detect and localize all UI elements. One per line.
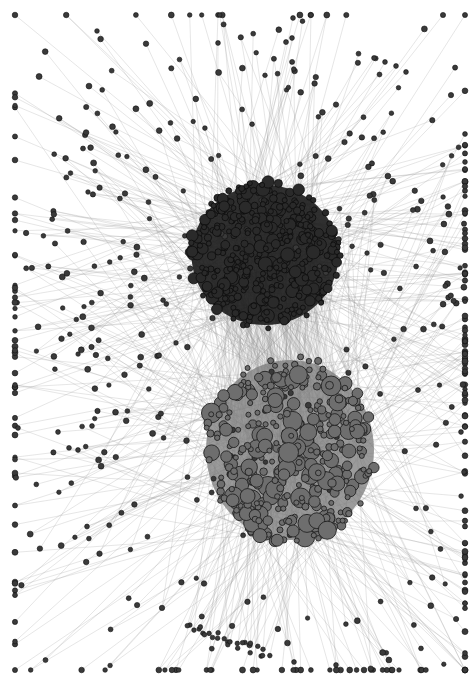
graph-node bbox=[328, 425, 341, 438]
graph-node bbox=[211, 203, 216, 208]
graph-node bbox=[263, 384, 268, 389]
graph-node bbox=[312, 207, 318, 213]
leaf-node bbox=[389, 111, 394, 116]
leaf-node bbox=[107, 523, 112, 528]
leaf-node bbox=[141, 275, 147, 281]
leaf-node bbox=[309, 13, 314, 18]
leaf-node bbox=[13, 503, 18, 508]
graph-node bbox=[355, 405, 361, 411]
leaf-node bbox=[82, 304, 86, 308]
graph-node bbox=[287, 228, 293, 234]
graph-node bbox=[359, 453, 364, 458]
leaf-node bbox=[419, 198, 424, 203]
graph-node bbox=[204, 234, 211, 241]
graph-node bbox=[298, 222, 303, 227]
leaf-node bbox=[463, 339, 468, 344]
leaf-node bbox=[394, 64, 399, 69]
leaf-node bbox=[235, 641, 240, 646]
leaf-node bbox=[397, 668, 402, 673]
leaf-node bbox=[147, 100, 153, 106]
leaf-node bbox=[12, 95, 18, 101]
graph-node bbox=[346, 510, 352, 516]
leaf-node bbox=[125, 409, 130, 414]
leaf-node bbox=[19, 582, 24, 587]
leaf-node bbox=[463, 606, 468, 611]
leaf-node bbox=[209, 156, 214, 161]
leaf-node bbox=[344, 347, 349, 352]
graph-node bbox=[296, 293, 302, 299]
graph-node bbox=[317, 426, 323, 432]
graph-node bbox=[269, 287, 275, 293]
leaf-node bbox=[85, 524, 90, 529]
leaf-node bbox=[380, 650, 386, 656]
graph-node bbox=[241, 240, 248, 247]
leaf-node bbox=[80, 424, 85, 429]
leaf-node bbox=[462, 424, 467, 429]
leaf-node bbox=[187, 13, 192, 18]
leaf-node bbox=[133, 13, 138, 18]
leaf-node bbox=[414, 264, 419, 269]
leaf-node bbox=[390, 178, 396, 184]
leaf-node bbox=[108, 663, 113, 668]
leaf-node bbox=[13, 383, 18, 388]
leaf-node bbox=[261, 595, 266, 600]
leaf-node bbox=[462, 413, 468, 419]
leaf-node bbox=[210, 315, 215, 320]
graph-node bbox=[227, 410, 232, 415]
leaf-node bbox=[12, 588, 17, 593]
leaf-node bbox=[462, 358, 468, 364]
leaf-node bbox=[146, 200, 151, 205]
graph-node bbox=[204, 425, 209, 430]
leaf-node bbox=[440, 301, 446, 307]
graph-node bbox=[234, 293, 241, 300]
graph-node bbox=[271, 240, 280, 249]
graph-node bbox=[263, 405, 271, 413]
leaf-node bbox=[176, 668, 181, 673]
leaf-node bbox=[12, 217, 18, 223]
leaf-node bbox=[456, 145, 461, 150]
leaf-node bbox=[459, 494, 464, 499]
graph-node bbox=[324, 253, 330, 259]
graph-node bbox=[201, 293, 206, 298]
graph-node bbox=[239, 186, 245, 192]
graph-node bbox=[323, 284, 332, 293]
leaf-node bbox=[158, 411, 163, 416]
edges-layer bbox=[15, 15, 465, 670]
graph-node bbox=[283, 410, 290, 417]
leaf-node bbox=[378, 391, 383, 396]
leaf-node bbox=[80, 314, 86, 320]
leaf-node bbox=[128, 294, 133, 299]
leaf-node bbox=[92, 416, 96, 420]
graph-node bbox=[294, 500, 299, 505]
leaf-node bbox=[78, 347, 84, 353]
graph-node bbox=[300, 424, 317, 441]
graph-node bbox=[263, 422, 268, 427]
leaf-node bbox=[427, 238, 433, 244]
leaf-node bbox=[68, 332, 72, 336]
graph-node bbox=[348, 396, 357, 405]
leaf-node bbox=[168, 121, 173, 126]
graph-node bbox=[212, 289, 217, 294]
leaf-node bbox=[89, 325, 95, 331]
leaf-node bbox=[378, 242, 383, 247]
graph-node bbox=[302, 285, 312, 295]
graph-node bbox=[226, 188, 232, 194]
leaf-node bbox=[209, 646, 214, 651]
leaf-node bbox=[116, 153, 121, 158]
graph-node bbox=[264, 317, 269, 322]
graph-node bbox=[221, 301, 226, 306]
leaf-node bbox=[97, 551, 102, 556]
graph-node bbox=[270, 459, 275, 464]
leaf-node bbox=[52, 241, 57, 246]
leaf-node bbox=[96, 457, 102, 463]
leaf-node bbox=[377, 72, 382, 77]
leaf-node bbox=[462, 313, 468, 319]
graph-node bbox=[277, 233, 282, 238]
graph-node bbox=[291, 312, 296, 317]
graph-node bbox=[186, 230, 198, 242]
graph-node bbox=[202, 281, 212, 291]
leaf-node bbox=[185, 623, 190, 628]
leaf-node bbox=[56, 115, 62, 121]
graph-node bbox=[267, 382, 274, 389]
graph-node bbox=[296, 249, 301, 254]
